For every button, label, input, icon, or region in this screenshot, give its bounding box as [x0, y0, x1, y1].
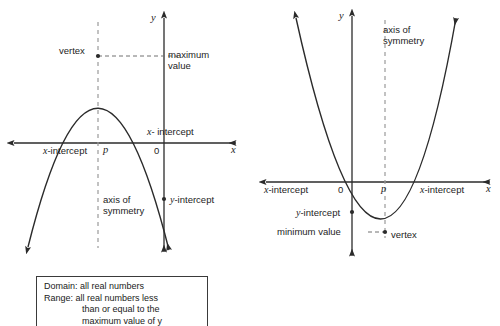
- x-intercept-left-label: x-intercept: [43, 145, 87, 157]
- range-value-line2: than or equal to the: [44, 304, 201, 316]
- x-intercept-right-label: x- intercept: [147, 126, 194, 138]
- origin-label: 0: [154, 145, 159, 157]
- x-axis-label: x: [231, 144, 236, 155]
- parabola-maximum-graph: [0, 0, 250, 270]
- vertex-x-value-label: p: [103, 144, 108, 155]
- y-axis-label: y: [339, 10, 344, 21]
- y-intercept-label: y-intercept: [170, 194, 214, 206]
- domain-line: Domain: all real numbers: [44, 281, 201, 293]
- figure-canvas: y x vertex maximum value x- intercept x-…: [0, 0, 500, 326]
- y-intercept-label: y-intercept: [296, 207, 340, 219]
- y-intercept-point: [350, 210, 354, 214]
- y-axis-label: y: [151, 12, 156, 23]
- vertex-x-value-label: p: [381, 183, 386, 194]
- maximum-value-label-line2: value: [168, 60, 191, 72]
- x-intercept-right-label: x-intercept: [420, 184, 464, 196]
- range-line: Range: all real numbers less: [44, 293, 201, 305]
- range-key: Range:: [44, 293, 73, 303]
- vertex-label: vertex: [391, 229, 417, 241]
- x-axis-label: x: [486, 183, 491, 194]
- x-intercept-left-label: x-intercept: [264, 184, 308, 196]
- axis-of-symmetry-label-line1: axis of: [383, 24, 410, 36]
- vertex-point: [96, 54, 100, 58]
- vertex-label: vertex: [59, 45, 85, 57]
- axis-of-symmetry-label-line1: axis of: [103, 194, 130, 206]
- range-value-line3: maximum value of y: [44, 316, 201, 326]
- domain-value: all real numbers: [80, 281, 144, 291]
- maximum-value-label-line1: maximum: [168, 49, 209, 61]
- range-value-line1: all real numbers less: [76, 293, 159, 303]
- y-intercept-point: [162, 197, 166, 201]
- domain-key: Domain:: [44, 281, 78, 291]
- vertex-point: [383, 230, 387, 234]
- origin-label: 0: [338, 184, 343, 196]
- minimum-value-label: minimum value: [277, 226, 341, 238]
- axis-of-symmetry-label-line2: symmetry: [103, 205, 144, 217]
- parabola-maximum-panel: y x vertex maximum value x- intercept x-…: [0, 0, 250, 326]
- domain-range-box-maximum: Domain: all real numbers Range: all real…: [36, 276, 208, 326]
- parabola-minimum-panel: y x axis of symmetry x-intercept 0 p x-i…: [250, 0, 500, 326]
- axis-of-symmetry-label-line2: symmetry: [383, 35, 424, 47]
